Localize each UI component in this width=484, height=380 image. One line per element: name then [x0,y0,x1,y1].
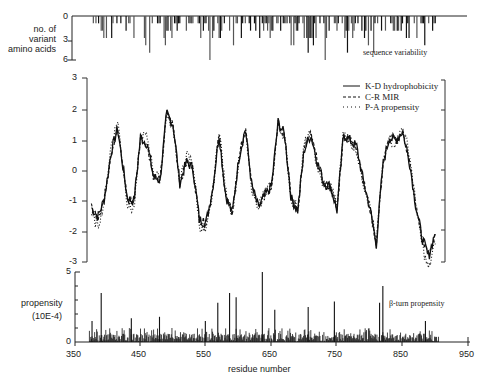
x-tick-450: 450 [131,349,146,359]
legend-pa-propensity: P-A propensity [365,102,419,112]
mid-tick-0: 0 [72,165,77,175]
bot-tick-0: 0 [66,336,71,346]
line-p-a-propensity [91,114,435,267]
top-ylabel-line3: amino acids [8,44,56,54]
mid-tick-3: 3 [72,72,77,82]
bot-tick-5: 5 [66,266,71,276]
top-tick-0: 0 [63,11,68,21]
beta-turn-bars [89,272,438,342]
top-ylabel-line2: variant [29,34,56,44]
line-k-d-hydrophobicity [91,110,435,259]
sequence-variability-annotation: sequence variability [363,48,427,58]
mid-tick-m2: -2 [69,226,77,236]
line-c-r-mir [91,110,435,254]
top-tick-3: 3 [63,34,68,44]
bottom-ylabel-line1: propensity [21,298,63,308]
legend-kd-hydrophobicity: K-D hydrophobicity [365,81,438,91]
x-tick-850: 850 [393,349,408,359]
top-ylabel-line1: no. of [33,24,56,34]
top-tick-6: 6 [63,54,68,64]
x-axis-label: residue number [228,364,291,374]
x-tick-950: 950 [459,349,474,359]
profile-lines [91,110,435,268]
legend-swatches [343,86,360,107]
x-tick-650: 650 [262,349,277,359]
mid-tick-m3: -3 [69,256,77,266]
mid-tick-2: 2 [72,104,77,114]
beta-turn-annotation: β-turn propensity [389,299,444,309]
mid-tick-1: 1 [72,135,77,145]
bottom-ylabel-line2: (10E-4) [32,311,62,321]
x-tick-550: 550 [196,349,211,359]
x-tick-350: 350 [66,349,81,359]
legend-cr-mir: C-R MIR [365,92,399,102]
mid-tick-m1: -1 [69,195,77,205]
x-tick-750: 750 [327,349,342,359]
